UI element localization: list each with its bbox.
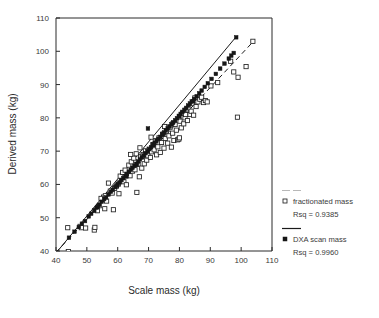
data-point-dxa [234, 36, 238, 40]
data-point-fractionated [158, 150, 162, 154]
y-tick-label: 70 [40, 147, 49, 156]
x-tick-label: 40 [52, 256, 61, 265]
data-point-fractionated [66, 226, 70, 230]
data-point-dxa [89, 212, 93, 216]
data-point-dxa [135, 163, 139, 167]
data-point-fractionated [216, 80, 220, 84]
x-tick-label: 50 [82, 256, 91, 265]
legend-label-fractionated-mass: fractionated mass [293, 197, 353, 206]
data-point-fractionated [66, 250, 70, 254]
legend-rsq-dxa-scan-mass: Rsq = 0.9960 [293, 248, 338, 257]
data-point-dxa [83, 219, 87, 223]
data-point-fractionated [174, 128, 178, 132]
data-point-fractionated [138, 146, 142, 150]
scatter-plot-figure: 405060708090100110 405060708090100110 Sc… [0, 0, 379, 318]
y-tick-label: 100 [36, 47, 50, 56]
data-point-fractionated [124, 183, 128, 187]
y-tick-label: 80 [40, 114, 49, 123]
data-point-dxa [125, 175, 129, 179]
y-tick-label: 60 [40, 180, 49, 189]
data-point-dxa [73, 230, 77, 234]
data-point-dxa [152, 143, 156, 147]
data-point-fractionated [194, 104, 198, 108]
data-point-dxa [77, 225, 81, 229]
data-point-fractionated [129, 152, 133, 156]
data-point-fractionated [140, 166, 144, 170]
data-point-fractionated [123, 168, 127, 172]
x-tick-label: 70 [144, 256, 153, 265]
x-tick-label: 110 [266, 256, 279, 265]
y-tick-label: 50 [40, 214, 49, 223]
data-point-fractionated [235, 115, 239, 119]
data-point-dxa [178, 115, 182, 119]
data-point-fractionated [251, 39, 255, 43]
data-point-dxa [171, 121, 175, 125]
data-point-fractionated [111, 208, 115, 212]
x-tick-label: 100 [234, 256, 248, 265]
data-point-dxa [115, 184, 119, 188]
data-point-dxa [191, 99, 195, 103]
data-point-fractionated [169, 145, 173, 149]
legend-rsq-fractionated-mass: Rsq = 0.9385 [293, 210, 338, 219]
data-point-fractionated [232, 70, 236, 74]
data-point-fractionated [192, 113, 196, 117]
y-axis-title: Derived mass (kg) [7, 93, 18, 174]
data-point-fractionated [162, 146, 166, 150]
data-point-dxa [200, 89, 204, 93]
y-tick-label: 40 [40, 247, 49, 256]
x-axis-ticks: 405060708090100110 [52, 247, 279, 265]
x-tick-label: 60 [113, 256, 122, 265]
data-point-fractionated [106, 181, 110, 185]
data-point-fractionated [177, 136, 181, 140]
y-tick-label: 110 [36, 14, 49, 23]
fractionated-mass-points [66, 39, 255, 254]
data-point-dxa [146, 127, 150, 131]
data-point-fractionated [185, 118, 189, 122]
x-tick-label: 80 [175, 256, 184, 265]
data-point-fractionated [205, 100, 209, 104]
y-tick-label: 90 [40, 81, 49, 90]
data-point-fractionated [103, 207, 107, 211]
legend-marker-filled-square [283, 237, 287, 241]
data-point-fractionated [236, 75, 240, 79]
data-point-dxa [232, 51, 236, 55]
data-point-dxa [223, 62, 227, 66]
data-point-fractionated [117, 192, 121, 196]
data-point-fractionated [149, 135, 153, 139]
data-point-dxa [67, 236, 71, 240]
data-point-fractionated [135, 190, 139, 194]
data-point-dxa [96, 205, 100, 209]
data-point-dxa [218, 67, 222, 71]
data-point-fractionated [156, 145, 160, 149]
data-point-fractionated [148, 155, 152, 159]
data-point-dxa [214, 72, 218, 76]
data-point-fractionated [137, 175, 141, 179]
data-point-dxa [206, 81, 210, 85]
data-point-fractionated [244, 64, 248, 68]
x-axis-title: Scale mass (kg) [128, 285, 200, 296]
plot-canvas: 405060708090100110 405060708090100110 Sc… [0, 0, 379, 318]
legend-label-dxa-scan-mass: DXA scan mass [293, 235, 347, 244]
data-point-dxa [162, 132, 166, 136]
data-point-dxa [210, 77, 214, 81]
x-tick-label: 90 [206, 256, 215, 265]
legend-marker-open-square [283, 199, 287, 203]
data-point-fractionated [84, 226, 88, 230]
legend: fractionated mass Rsq = 0.9385 DXA scan … [282, 191, 353, 258]
data-point-dxa [203, 85, 207, 89]
data-point-fractionated [134, 152, 138, 156]
data-point-fractionated [93, 225, 97, 229]
